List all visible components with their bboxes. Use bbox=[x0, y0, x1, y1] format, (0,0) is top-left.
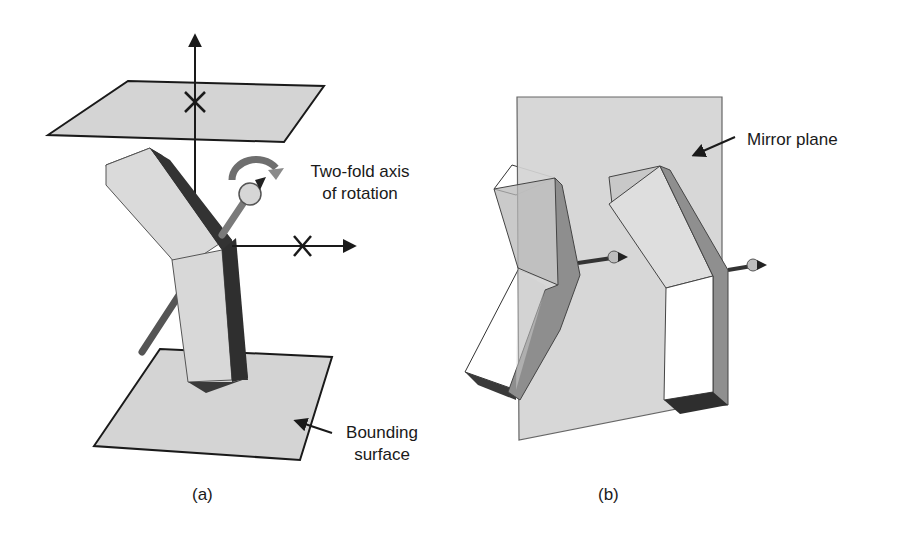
panel-a bbox=[48, 36, 354, 460]
mirror-plane-label: Mirror plane bbox=[747, 129, 838, 151]
bounding-surface-label-line2: surface bbox=[332, 444, 432, 466]
rotation-axis-label-line2: of rotation bbox=[290, 183, 430, 205]
caption-b: (b) bbox=[598, 485, 619, 505]
curved-rotation-arrowhead bbox=[268, 168, 284, 180]
rotation-axis-label: Two-fold axis of rotation bbox=[290, 161, 430, 205]
caption-a: (a) bbox=[192, 485, 213, 505]
right-bar-lower-white-face bbox=[664, 276, 713, 400]
figure-canvas bbox=[0, 0, 903, 538]
right-rod-arrowhead-icon bbox=[757, 260, 767, 270]
rod-end-cap bbox=[239, 183, 261, 205]
bounding-surface-label: Bounding surface bbox=[332, 422, 432, 466]
panel-b bbox=[465, 97, 767, 440]
rotation-axis-label-line1: Two-fold axis bbox=[290, 161, 430, 183]
curved-rotation-arrow-icon bbox=[232, 159, 276, 180]
bounding-surface-label-line1: Bounding bbox=[332, 422, 432, 444]
